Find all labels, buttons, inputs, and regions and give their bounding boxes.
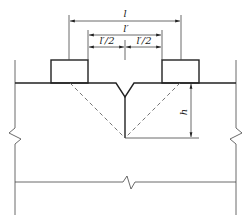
right-block [162, 60, 199, 83]
dashed-line-left [70, 83, 125, 138]
lp-label: l′ [123, 23, 129, 34]
half-left-label: l′/2 [99, 35, 114, 46]
h-label: h [178, 109, 189, 115]
dashed-line-right [125, 83, 180, 138]
top-surface-line [15, 83, 236, 97]
cross-section-diagram: h l l′ l′/2 l′/2 [0, 0, 248, 220]
bottom-line [15, 176, 236, 189]
left-block [51, 60, 88, 83]
half-right-label: l′/2 [136, 35, 151, 46]
l-label: l [123, 8, 126, 19]
